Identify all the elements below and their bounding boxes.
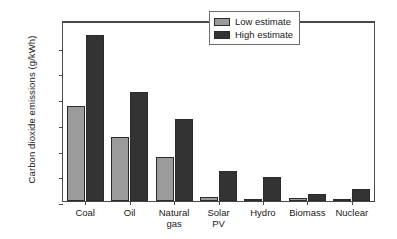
x-axis-tick-mark (307, 201, 308, 205)
bar-low-estimate (244, 199, 262, 201)
bar-group (289, 21, 326, 201)
bar-low-estimate (111, 137, 129, 201)
legend-item: Low estimate (214, 15, 293, 28)
bar-high-estimate (352, 189, 370, 201)
bar-high-estimate (130, 92, 148, 201)
y-axis-tick-mark (59, 101, 63, 102)
bar-low-estimate (67, 106, 85, 201)
bar-high-estimate (308, 194, 326, 201)
chart-legend: Low estimateHigh estimate (209, 11, 300, 45)
y-axis-tick-mark (59, 75, 63, 76)
bar-group (111, 21, 148, 201)
y-axis-tick-mark (59, 204, 63, 205)
x-axis-tick-label: Nuclear (315, 207, 389, 218)
legend-item-label: High estimate (235, 30, 293, 40)
y-axis-title: Carbon dioxide emissions (g/kWh) (26, 17, 37, 203)
bar-group (244, 21, 281, 201)
x-axis-tick-mark (219, 201, 220, 205)
x-axis-tick-mark (174, 201, 175, 205)
bar-low-estimate (156, 157, 174, 201)
bar-group (156, 21, 193, 201)
x-axis-tick-mark (85, 201, 86, 205)
bar-high-estimate (219, 171, 237, 201)
bar-low-estimate (333, 199, 351, 201)
bar-low-estimate (289, 198, 307, 201)
x-axis-tick-mark (352, 201, 353, 205)
bar-high-estimate (86, 35, 104, 201)
y-axis-tick-mark (59, 178, 63, 179)
legend-swatch-icon (214, 18, 230, 26)
x-axis-tick-mark (263, 201, 264, 205)
legend-item-label: Low estimate (235, 17, 291, 27)
plot-area: CoalOilNaturalgasSolarPVHydroBiomassNucl… (62, 21, 375, 202)
chart-figure: Carbon dioxide emissions (g/kWh) 0200400… (0, 0, 397, 239)
y-axis-tick-mark (59, 127, 63, 128)
bar-low-estimate (200, 197, 218, 201)
bar-group (333, 21, 370, 201)
y-axis-tick-mark (59, 153, 63, 154)
y-axis-tick-mark (59, 50, 63, 51)
bar-high-estimate (263, 177, 281, 201)
bar-high-estimate (175, 119, 193, 201)
legend-item: High estimate (214, 28, 293, 41)
x-axis-tick-label-line: Nuclear (315, 207, 389, 218)
bar-group (200, 21, 237, 201)
x-axis-tick-mark (130, 201, 131, 205)
bar-group (67, 21, 104, 201)
x-axis-tick-label-line: PV (182, 218, 256, 229)
legend-swatch-icon (214, 31, 230, 39)
